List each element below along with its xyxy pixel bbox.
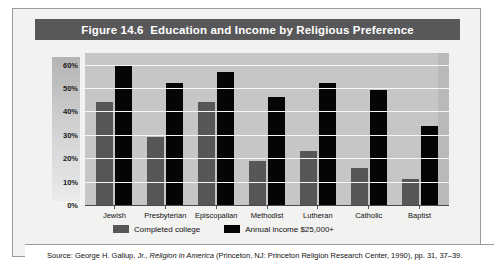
- x-axis-tick-label-presbyterian: Presbyterian: [144, 211, 186, 220]
- bar-catholic-completed-college: [351, 168, 368, 205]
- bar-lutheran-annual-income: [319, 83, 336, 205]
- source-note: Source: George H. Gallup, Jr., Religion …: [47, 251, 462, 260]
- legend-swatch-0: [113, 225, 129, 233]
- chart-area: Percentage 0%10%20%30%40%50%60% JewishPr…: [35, 53, 460, 226]
- bar-jewish-completed-college: [96, 102, 113, 205]
- x-axis-tick-label-lutheran: Lutheran: [303, 211, 333, 220]
- y-axis-tick-4: 40%: [63, 107, 78, 116]
- gridline-10: [85, 182, 449, 183]
- legend-label-1: Annual income $25,000+: [245, 225, 334, 234]
- y-axis-tick-3: 30%: [63, 130, 78, 139]
- y-axis-tick-6: 60%: [63, 60, 78, 69]
- y-axis-tick-0: 0%: [67, 201, 78, 210]
- bar-methodist-annual-income: [268, 97, 285, 205]
- bar-presbyterian-annual-income: [166, 83, 183, 205]
- x-axis-tick-label-baptist: Baptist: [408, 211, 431, 220]
- bar-baptist-annual-income: [421, 126, 438, 206]
- figure-title-banner: Figure 14.6 Education and Income by Reli…: [35, 19, 460, 40]
- x-axis-tick-mark-3: [267, 206, 268, 209]
- bar-episcopalian-completed-college: [198, 102, 215, 205]
- x-axis-tick-mark-0: [114, 206, 115, 209]
- plot-area: [85, 53, 449, 205]
- bar-methodist-completed-college: [249, 161, 266, 205]
- bar-catholic-annual-income: [370, 90, 387, 205]
- y-axis-tick-5: 50%: [63, 84, 78, 93]
- y-axis-tick-labels: 0%10%20%30%40%50%60%: [50, 53, 80, 205]
- chart-legend: Completed collegeAnnual income $25,000+: [113, 223, 352, 235]
- legend-item-completed-college: Completed college: [113, 225, 200, 234]
- gridline-20: [85, 158, 449, 159]
- x-axis-tick-mark-4: [317, 206, 318, 209]
- y-axis-tick-2: 20%: [63, 154, 78, 163]
- gridline-60: [85, 65, 449, 66]
- x-axis-tick-label-jewish: Jewish: [103, 211, 126, 220]
- legend-item-annual-income: Annual income $25,000+: [224, 225, 334, 234]
- gridline-50: [85, 88, 449, 89]
- y-axis-tick-1: 10%: [63, 177, 78, 186]
- x-axis-tick-mark-6: [419, 206, 420, 209]
- source-note-box: Source: George H. Gallup, Jr., Religion …: [25, 244, 494, 266]
- x-axis-tick-label-catholic: Catholic: [355, 211, 382, 220]
- x-axis-tick-cell-6: Baptist: [394, 206, 445, 226]
- source-title-italic: Religion in America: [150, 251, 214, 260]
- x-axis-tick-mark-2: [216, 206, 217, 209]
- legend-label-0: Completed college: [134, 225, 200, 234]
- legend-swatch-1: [224, 225, 240, 233]
- gridline-40: [85, 111, 449, 112]
- figure-title: Figure 14.6 Education and Income by Reli…: [81, 24, 414, 36]
- bar-baptist-completed-college: [402, 179, 419, 205]
- bar-episcopalian-annual-income: [217, 72, 234, 205]
- gridline-30: [85, 135, 449, 136]
- bar-lutheran-completed-college: [300, 151, 317, 205]
- x-axis-tick-mark-5: [368, 206, 369, 209]
- x-axis-tick-label-episcopalian: Episcopalian: [195, 211, 238, 220]
- bar-presbyterian-completed-college: [147, 137, 164, 205]
- x-axis-tick-mark-1: [165, 206, 166, 209]
- figure-frame: Figure 14.6 Education and Income by Reli…: [12, 8, 481, 257]
- x-axis-tick-label-methodist: Methodist: [251, 211, 284, 220]
